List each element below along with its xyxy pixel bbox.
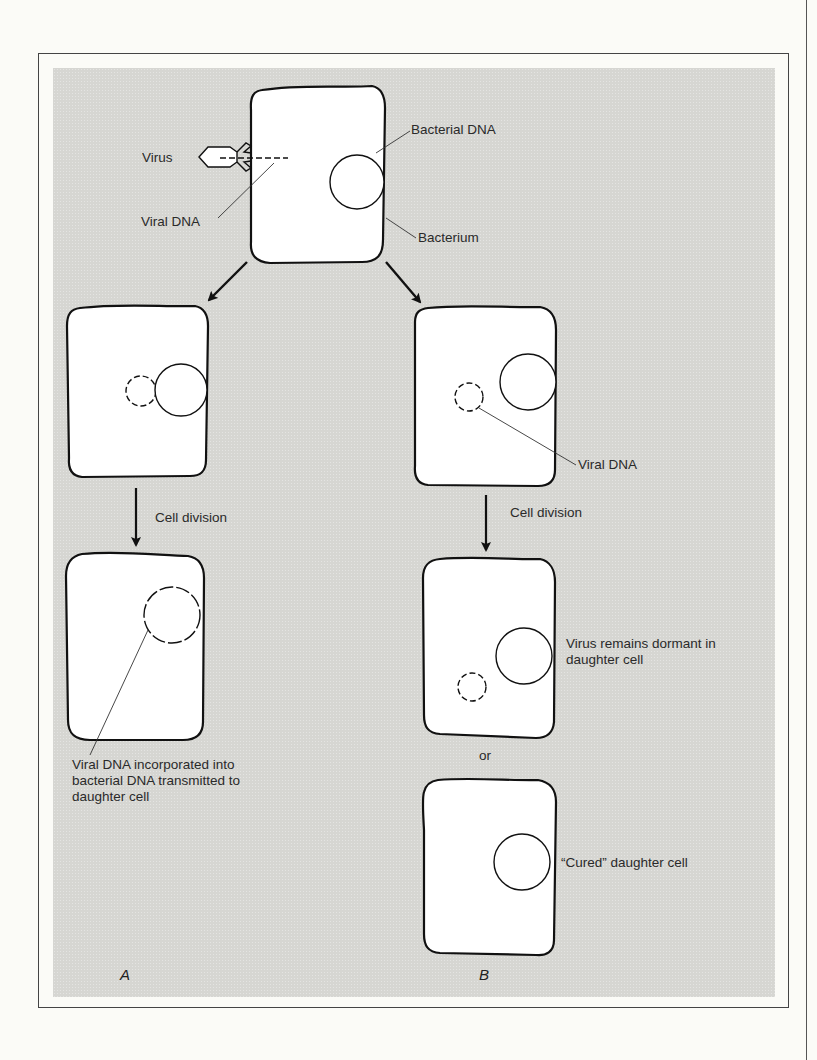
label-virus: Virus <box>142 150 173 166</box>
caption-dormant: Virus remains dormant in daughter cell <box>566 636 746 668</box>
branch-a-daughter-cell <box>66 553 204 755</box>
bacterial-dna-circle <box>496 628 552 684</box>
integrated-dna-dashed-circle <box>144 587 200 643</box>
label-viral-dna: Viral DNA <box>141 214 200 230</box>
arrow-to-branch-b <box>386 262 420 302</box>
label-or: or <box>479 748 491 764</box>
label-viral-dna-b: Viral DNA <box>578 457 637 473</box>
label-bacterial-dna: Bacterial DNA <box>411 122 496 138</box>
arrow-to-branch-a <box>209 262 247 300</box>
virus-icon <box>199 143 251 171</box>
leader-bacterium <box>386 218 416 238</box>
panel-letter-b: B <box>479 966 489 983</box>
label-cell-division-b: Cell division <box>510 505 582 521</box>
bacterial-dna-circle <box>330 155 384 209</box>
infected-bacterium <box>199 86 416 263</box>
branch-b-dormant-daughter-cell <box>423 558 555 738</box>
branch-b-cell <box>415 306 576 486</box>
branch-b-cured-daughter-cell <box>423 779 556 955</box>
label-cell-division-a: Cell division <box>155 510 227 526</box>
label-bacterium: Bacterium <box>418 230 479 246</box>
bacterial-dna-circle <box>500 354 556 410</box>
bacterial-dna-circle <box>494 834 550 890</box>
bacterial-dna-circle <box>155 364 207 416</box>
caption-cured: “Cured” daughter cell <box>561 855 688 871</box>
branch-a-cell <box>67 305 208 477</box>
caption-integrated-dna: Viral DNA incorporated into bacterial DN… <box>72 757 262 805</box>
panel-letter-a: A <box>120 966 130 983</box>
lysogeny-diagram <box>0 0 817 1060</box>
